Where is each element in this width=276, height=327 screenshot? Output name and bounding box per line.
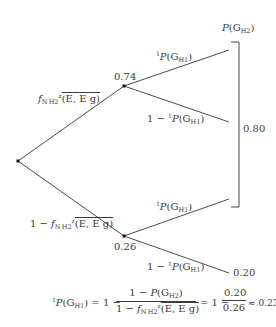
superscript: 1 [168, 112, 172, 119]
f-subscript: N H2 [55, 223, 72, 231]
superscript: 1 [156, 50, 160, 57]
close-paren: ) [200, 261, 204, 272]
upper-node [123, 85, 126, 88]
root-lower-branch-label: 1 − fN H2z(E, E g) [30, 218, 113, 231]
g-subscript: H1 [191, 266, 201, 274]
prefix: 1 − [129, 287, 150, 298]
p-symbol: P [222, 22, 229, 33]
z-superscript: z [72, 217, 75, 224]
z-superscript: z [59, 92, 62, 99]
fraction-2-numerator: 0.20 [222, 287, 246, 301]
g-symbol: (G [167, 201, 179, 212]
fraction-1: 1 − P(GH2) 1 − fN H2z(E, E g) [116, 287, 196, 316]
superscript: 1 [156, 200, 160, 207]
close-paren: ) [250, 22, 254, 33]
p-symbol: P [172, 113, 179, 124]
f-subscript: N H2 [141, 308, 158, 316]
upper-lower-branch-label: 1 − 1P(GH1) [147, 113, 204, 126]
superscript: 1 [52, 296, 56, 303]
g-subscript: H1 [74, 302, 84, 310]
bracket-top-label: P(GH2) [222, 22, 254, 35]
superscript: 1 [168, 260, 172, 267]
p-symbol: P [56, 297, 63, 308]
f-subscript: N H2 [42, 98, 59, 106]
upper-upper-branch-label: 1P(GH1) [156, 51, 192, 64]
root-upper-branch-label: fN H2z(E, E g) [38, 93, 100, 106]
formula: 1P(GH1) = 1 − 1 − P(GH2) 1 − fN H2z(E, E… [0, 284, 276, 324]
bracket-value: 0.80 [243, 123, 265, 135]
g-symbol: (G [157, 287, 169, 298]
g-symbol: (G [179, 113, 191, 124]
fraction-1-denominator: 1 − fN H2z(E, E g) [116, 302, 196, 316]
fraction-2-denominator: 0.26 [222, 301, 246, 314]
bracket [231, 42, 239, 207]
upper-node-value: 0.74 [114, 71, 136, 83]
close-paren: ) [188, 201, 192, 212]
p-symbol: P [160, 51, 167, 62]
formula-approx: ≈ 0.23 [248, 297, 276, 309]
g-subscript: H1 [178, 206, 188, 214]
g-symbol: (G [179, 261, 191, 272]
lower-lower-leaf-value: 0.20 [233, 267, 255, 279]
close-paren: ) [179, 287, 183, 298]
prefix: 1 − [30, 218, 51, 229]
args: (E, E g) [62, 93, 100, 104]
g-symbol: (G [63, 297, 75, 308]
fraction-1-numerator: 1 − P(GH2) [116, 287, 196, 302]
lower-upper-branch-label: 1P(GH1) [156, 201, 192, 214]
z-superscript: z [158, 302, 161, 309]
lower-lower-branch-label: 1 − 1P(GH1) [147, 261, 204, 274]
root-node [17, 160, 20, 163]
g-subscript: H2 [169, 292, 179, 300]
formula-lhs: 1P(GH1) = 1 − [52, 297, 124, 310]
p-symbol: P [160, 201, 167, 212]
lower-node [123, 235, 126, 238]
args: (E, E g) [75, 218, 113, 229]
prefix: 1 − [147, 113, 168, 124]
prefix: 1 − [147, 261, 168, 272]
fraction-2: 0.20 0.26 [222, 287, 246, 314]
g-symbol: (G [167, 51, 179, 62]
lower-node-value: 0.26 [114, 241, 136, 253]
args: (E, E g) [161, 303, 199, 314]
p-symbol: P [172, 261, 179, 272]
g-subscript: H1 [178, 56, 188, 64]
g-symbol: (G [229, 22, 241, 33]
g-subscript: H1 [191, 118, 201, 126]
prefix: 1 − [116, 303, 137, 314]
close-paren: ) [200, 113, 204, 124]
close-paren: ) [188, 51, 192, 62]
g-subscript: H2 [241, 27, 251, 35]
